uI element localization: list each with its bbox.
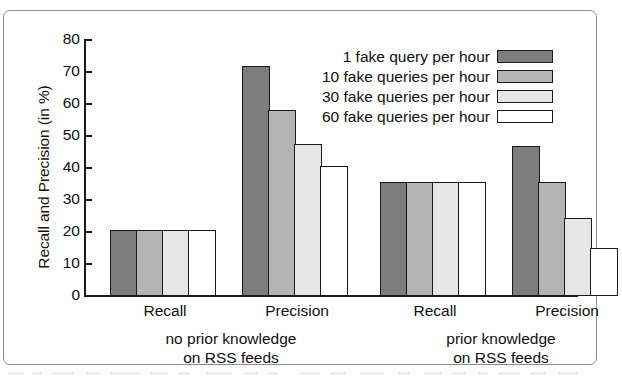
legend-item: 30 fake queries per hour <box>291 87 553 106</box>
x-section-label: prior knowledgeon RSS feeds <box>391 329 611 367</box>
bar <box>538 182 566 296</box>
y-tick-label: 20 <box>44 222 80 240</box>
x-section-label: no prior knowledgeon RSS feeds <box>121 329 341 367</box>
caption-fleck <box>244 372 258 375</box>
caption-fleck <box>206 372 232 375</box>
caption-fleck <box>398 372 410 375</box>
bar <box>406 182 434 296</box>
caption-fleck <box>452 372 466 375</box>
legend-swatch <box>497 50 553 63</box>
caption-fleck <box>360 372 384 375</box>
caption-fleck <box>8 372 24 375</box>
caption-fleck <box>424 372 442 375</box>
caption-fleck <box>300 372 320 375</box>
caption-fleck <box>52 372 74 375</box>
legend-item: 10 fake queries per hour <box>291 67 553 86</box>
caption-fleck <box>478 372 488 375</box>
legend-swatch <box>497 110 553 123</box>
bar <box>590 248 618 296</box>
y-tick-label: 10 <box>44 254 80 272</box>
bar <box>320 166 348 296</box>
x-section-label-line: on RSS feeds <box>391 348 611 367</box>
caption-fleck <box>110 372 140 375</box>
bar <box>380 182 408 296</box>
x-section-label-line: prior knowledge <box>391 329 611 348</box>
caption-fleck <box>178 372 190 375</box>
legend: 1 fake query per hour10 fake queries per… <box>291 47 553 127</box>
x-tick-label: Precision <box>507 302 622 320</box>
bar <box>512 146 540 296</box>
bar <box>268 110 296 296</box>
x-tick-label: Recall <box>375 302 495 320</box>
y-tick-label: 70 <box>44 62 80 80</box>
y-tick-label: 30 <box>44 190 80 208</box>
bar <box>294 144 322 296</box>
bar <box>458 182 486 296</box>
legend-swatch <box>497 70 553 83</box>
bar <box>242 66 270 296</box>
y-tick-label: 80 <box>44 30 80 48</box>
bar <box>110 230 138 296</box>
caption-fleck <box>150 372 168 375</box>
y-tick-label: 40 <box>44 158 80 176</box>
bar <box>162 230 190 296</box>
bar-group <box>110 40 220 296</box>
legend-label: 10 fake queries per hour <box>322 68 490 86</box>
y-tick-label: 50 <box>44 126 80 144</box>
x-tick-label: Precision <box>237 302 357 320</box>
legend-label: 60 fake queries per hour <box>322 108 490 126</box>
bar <box>136 230 164 296</box>
legend-label: 1 fake query per hour <box>343 48 490 66</box>
caption-fleck <box>330 372 346 375</box>
cropped-caption-remnant <box>0 370 601 382</box>
bar <box>432 182 460 296</box>
caption-fleck <box>558 372 578 375</box>
legend-swatch <box>497 90 553 103</box>
caption-fleck <box>86 372 100 375</box>
caption-fleck <box>498 372 520 375</box>
caption-fleck <box>530 372 546 375</box>
x-section-label-line: no prior knowledge <box>121 329 341 348</box>
legend-item: 60 fake queries per hour <box>291 107 553 126</box>
caption-fleck <box>268 372 278 375</box>
legend-item: 1 fake query per hour <box>291 47 553 66</box>
bar <box>188 230 216 296</box>
x-section-label-line: on RSS feeds <box>121 348 341 367</box>
y-tick-label: 60 <box>44 94 80 112</box>
legend-label: 30 fake queries per hour <box>322 88 490 106</box>
bar <box>564 218 592 296</box>
x-tick-label: Recall <box>105 302 225 320</box>
caption-fleck <box>32 372 42 375</box>
y-tick-label: 0 <box>44 286 80 304</box>
